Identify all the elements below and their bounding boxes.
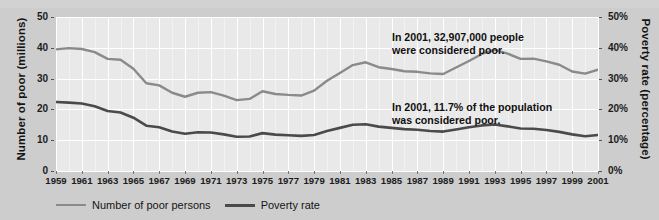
left-tick-label: 40 xyxy=(22,42,48,53)
legend-line-swatch xyxy=(225,204,255,207)
right-axis-tick xyxy=(599,140,602,141)
x-axis-tick xyxy=(469,171,470,174)
left-axis-tick xyxy=(51,109,54,110)
x-axis-tick xyxy=(572,171,573,174)
right-axis-title: Poverty rate (percentage) xyxy=(640,4,652,174)
left-tick-label: 50 xyxy=(22,11,48,22)
x-axis-tick xyxy=(495,171,496,174)
right-tick-label: 20% xyxy=(608,103,642,114)
left-axis-tick xyxy=(51,140,54,141)
x-axis-tick xyxy=(392,171,393,174)
x-axis-tick xyxy=(340,171,341,174)
right-axis-tick xyxy=(599,171,602,172)
x-axis-tick xyxy=(56,171,57,174)
x-axis-tick xyxy=(443,171,444,174)
chart-figure: Number of poor (millions) Poverty rate (… xyxy=(0,0,659,220)
x-tick-label: 2001 xyxy=(581,175,615,186)
right-tick-label: 50% xyxy=(608,11,642,22)
x-axis-tick xyxy=(237,171,238,174)
left-tick-label: 10 xyxy=(22,134,48,145)
x-axis-tick xyxy=(185,171,186,174)
figure-top-strip xyxy=(0,0,659,8)
x-axis-tick xyxy=(108,171,109,174)
x-axis-tick xyxy=(366,171,367,174)
left-axis-tick xyxy=(51,48,54,49)
left-axis-tick xyxy=(51,17,54,18)
horizontal-gridline xyxy=(56,171,598,172)
right-axis-tick xyxy=(599,17,602,18)
right-axis-tick xyxy=(599,79,602,80)
x-axis-tick xyxy=(82,171,83,174)
x-axis-tick xyxy=(546,171,547,174)
right-axis-tick xyxy=(599,48,602,49)
x-axis-tick xyxy=(417,171,418,174)
left-tick-label: 20 xyxy=(22,103,48,114)
left-axis-tick xyxy=(51,171,54,172)
legend-label: Number of poor persons xyxy=(92,199,211,211)
annotation-poverty-rate: In 2001, 11.7% of the population was con… xyxy=(392,101,552,127)
left-tick-label: 30 xyxy=(22,73,48,84)
x-axis-tick xyxy=(314,171,315,174)
x-axis-tick xyxy=(521,171,522,174)
right-tick-label: 40% xyxy=(608,42,642,53)
left-axis-tick xyxy=(51,79,54,80)
legend-item-poor-count[interactable]: Number of poor persons xyxy=(56,199,211,211)
x-axis-tick xyxy=(288,171,289,174)
x-axis-tick xyxy=(159,171,160,174)
legend-line-swatch xyxy=(56,204,86,206)
right-axis-tick xyxy=(599,109,602,110)
x-axis-tick xyxy=(211,171,212,174)
x-axis-tick xyxy=(598,171,599,174)
legend-item-poverty-rate[interactable]: Poverty rate xyxy=(225,199,320,211)
chart-legend: Number of poor personsPoverty rate xyxy=(56,196,320,214)
vertical-gridline xyxy=(598,17,599,171)
legend-label: Poverty rate xyxy=(261,199,320,211)
right-tick-label: 10% xyxy=(608,134,642,145)
x-axis-tick xyxy=(133,171,134,174)
right-tick-label: 30% xyxy=(608,73,642,84)
annotation-poor-count: In 2001, 32,907,000 people were consider… xyxy=(392,31,524,57)
x-axis-tick xyxy=(263,171,264,174)
